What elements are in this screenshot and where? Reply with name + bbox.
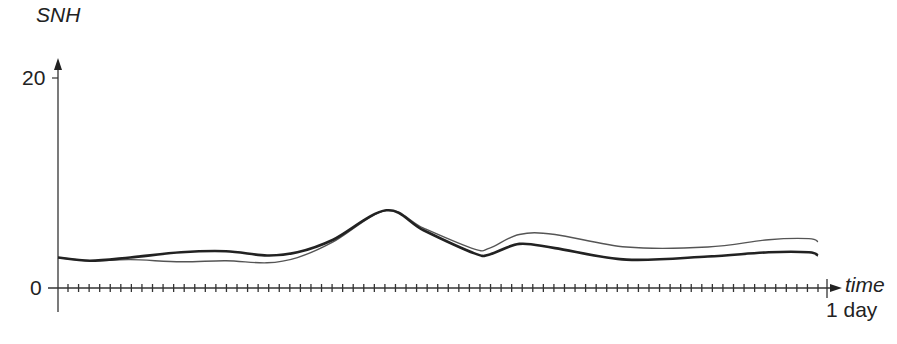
y-tick-label-20: 20: [22, 66, 45, 90]
y-axis-label: SNH: [36, 3, 80, 27]
y-axis-arrow-icon: [54, 58, 62, 70]
y-tick-label-0: 0: [30, 276, 42, 300]
line-chart: [0, 0, 897, 344]
series-thick-line: [58, 210, 818, 261]
x-axis-label: time: [845, 273, 885, 297]
x-end-label: 1 day: [826, 298, 877, 322]
x-axis-arrow-icon: [830, 284, 842, 292]
